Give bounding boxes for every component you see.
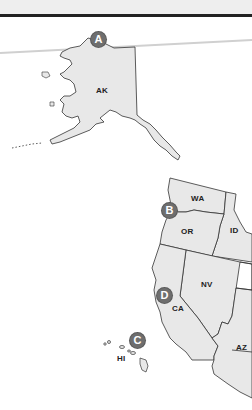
state-label-wa: WA bbox=[191, 194, 205, 203]
marker-a[interactable]: A bbox=[91, 32, 106, 47]
marker-d[interactable]: D bbox=[157, 288, 172, 303]
us-west-map bbox=[0, 0, 252, 410]
state-label-ak: AK bbox=[96, 86, 108, 95]
state-label-az: AZ bbox=[236, 343, 247, 352]
state-label-id: ID bbox=[230, 226, 239, 235]
state-label-or: OR bbox=[181, 227, 194, 236]
state-label-ca: CA bbox=[172, 304, 184, 313]
state-label-hi: HI bbox=[117, 354, 126, 363]
marker-c[interactable]: C bbox=[130, 333, 145, 348]
state-alaska bbox=[50, 38, 180, 160]
marker-b[interactable]: B bbox=[162, 203, 177, 218]
state-label-nv: NV bbox=[201, 280, 213, 289]
